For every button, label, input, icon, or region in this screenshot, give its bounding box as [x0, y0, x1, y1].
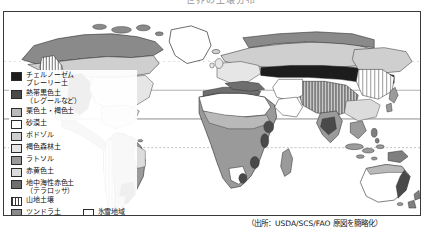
legend-label-icefield: 氷雪地域 — [98, 208, 126, 216]
legend-item-brown-forest[interactable]: 褐色森林土 — [11, 143, 135, 154]
legend-swatch-terra-rossa — [11, 180, 22, 189]
legend-swatch-icefield — [83, 209, 94, 216]
legend-label-latosol: ラトソル — [26, 155, 54, 163]
world-map-frame: チェルノーゼム プレーリー土 熱帯黒色土 （レグールなど） 栗色土・褐色土 砂漠… — [3, 11, 421, 216]
legend-row-tundra-icefield: ツンドラ土 氷雪地域 — [11, 208, 135, 216]
legend-item-mountain-soil[interactable]: 山地土壌 — [11, 196, 135, 207]
map-legend: チェルノーゼム プレーリー土 熱帯黒色土 （レグールなど） 栗色土・褐色土 砂漠… — [9, 70, 137, 216]
region-iceland — [212, 49, 220, 53]
legend-swatch-chestnut-brown — [11, 108, 22, 117]
legend-label-chernozem: チェルノーゼム プレーリー土 — [26, 71, 74, 88]
legend-item-tropical-black[interactable]: 熱帯黒色土 （レグールなど） — [11, 89, 135, 106]
legend-swatch-tropical-black — [11, 90, 22, 99]
soil-distribution-figure: 世界の土壌分布 — [0, 0, 427, 235]
legend-item-red-yellow[interactable]: 赤黄色土 — [11, 167, 135, 178]
legend-label-red-yellow: 赤黄色土 — [26, 167, 54, 175]
legend-item-latosol[interactable]: ラトソル — [11, 155, 135, 166]
legend-label-podzol: ポドゾル — [26, 131, 54, 139]
legend-swatch-mountain-soil — [11, 197, 22, 206]
legend-item-chestnut-brown[interactable]: 栗色土・褐色土 — [11, 107, 135, 118]
legend-swatch-red-yellow — [11, 168, 22, 177]
legend-item-terra-rossa[interactable]: 地中海性赤色土 （テラロッサ） — [11, 179, 135, 196]
region-tasmania — [397, 203, 403, 206]
legend-item-podzol[interactable]: ポドゾル — [11, 131, 135, 142]
legend-swatch-tundra — [11, 209, 22, 216]
legend-label-brown-forest: 褐色森林土 — [26, 143, 61, 151]
legend-label-tropical-black: 熱帯黒色土 （レグールなど） — [26, 89, 81, 106]
legend-swatch-latosol — [11, 156, 22, 165]
legend-label-tundra: ツンドラ土 — [26, 208, 61, 216]
figure-title-strip: 世界の土壌分布 — [0, 0, 427, 9]
source-attribution: （出所：USDA/SCS/FAO 原図を簡略化） — [247, 219, 382, 229]
legend-item-desert[interactable]: 砂漠土 — [11, 119, 135, 130]
legend-swatch-desert — [11, 120, 22, 129]
legend-label-mountain-soil: 山地土壌 — [26, 196, 54, 204]
legend-swatch-podzol — [11, 132, 22, 141]
page-title: 世界の土壌分布 — [186, 0, 256, 6]
legend-swatch-chernozem — [11, 72, 22, 81]
legend-swatch-brown-forest — [11, 144, 22, 153]
legend-item-chernozem[interactable]: チェルノーゼム プレーリー土 — [11, 71, 135, 88]
legend-label-chestnut-brown: 栗色土・褐色土 — [26, 107, 74, 115]
legend-label-desert: 砂漠土 — [26, 119, 47, 127]
legend-label-terra-rossa: 地中海性赤色土 （テラロッサ） — [26, 179, 74, 196]
